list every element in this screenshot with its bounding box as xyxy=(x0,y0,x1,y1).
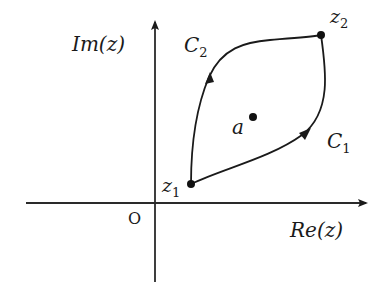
im-text: Im(z) xyxy=(71,32,125,56)
path-c2 xyxy=(191,35,321,184)
imaginary-axis-label: Im(z) xyxy=(71,32,125,56)
a-label: a xyxy=(232,115,244,139)
origin-label: O xyxy=(128,209,141,228)
real-axis-label: Re(z) xyxy=(289,218,343,242)
z2-subscript: 2 xyxy=(340,16,348,31)
point-z2 xyxy=(317,31,325,39)
z2-label: z2 xyxy=(329,5,348,31)
c1-subscript: 1 xyxy=(342,141,350,156)
point-a xyxy=(249,113,257,121)
complex-plane-diagram: Im(z) Re(z) O z1 z2 a C2 C1 xyxy=(0,0,380,293)
c1-main: C xyxy=(327,129,342,153)
c2-main: C xyxy=(184,33,199,57)
z1-subscript: 1 xyxy=(172,185,180,200)
c1-label: C1 xyxy=(327,129,351,156)
c2-subscript: 2 xyxy=(199,45,207,60)
z1-label: z1 xyxy=(161,174,180,200)
re-text: Re(z) xyxy=(289,218,343,242)
c2-direction-arrow-icon xyxy=(205,72,214,84)
path-c1 xyxy=(191,35,325,184)
point-z1 xyxy=(187,180,195,188)
c1-direction-arrow-icon xyxy=(299,128,311,140)
c2-label: C2 xyxy=(184,33,208,60)
